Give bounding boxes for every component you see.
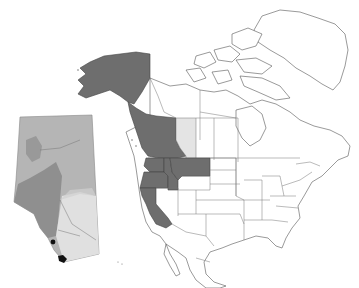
range-map (0, 0, 359, 288)
occurrence-point-1 (51, 240, 56, 245)
range-oregon (140, 172, 168, 188)
range-alaska (78, 52, 150, 104)
greenland (254, 10, 348, 90)
alberta-inset (14, 115, 99, 263)
inset-southeast-zone (56, 192, 99, 262)
